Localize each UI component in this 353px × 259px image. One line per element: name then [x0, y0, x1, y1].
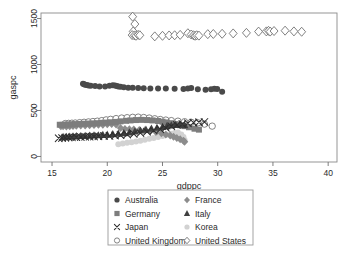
data-point: [141, 85, 147, 91]
legend-marker-icon: [114, 211, 119, 216]
data-point: [155, 85, 161, 91]
data-point: [147, 85, 153, 91]
y-tick-label: 1500: [29, 9, 39, 28]
data-point: [203, 87, 209, 93]
y-axis-title: gaspc: [8, 75, 18, 100]
data-point: [130, 85, 136, 91]
data-point: [133, 117, 139, 123]
legend-item-label: Japan: [125, 222, 148, 232]
x-tick-label: 30: [213, 168, 223, 178]
y-tick-label: 1000: [29, 55, 39, 74]
y-tick-label: 0: [29, 154, 39, 159]
data-point: [139, 117, 145, 123]
data-point: [127, 117, 133, 123]
x-tick-label: 20: [103, 168, 113, 178]
legend-marker-icon: [114, 197, 119, 202]
chart-canvas: 152025303540050010001500 gdppcgaspc Aust…: [0, 0, 353, 259]
data-point: [144, 117, 150, 123]
data-point: [150, 117, 156, 123]
legend-item-label: United States: [195, 236, 246, 246]
legend-item-label: Italy: [195, 209, 211, 219]
y-tick-label: 500: [29, 103, 39, 117]
legend-item-label: France: [195, 195, 222, 205]
legend-marker-icon: [184, 224, 189, 229]
x-tick-label: 40: [323, 168, 333, 178]
scatter-plot-figure: 152025303540050010001500 gdppcgaspc Aust…: [0, 0, 353, 259]
x-axis-title: gdppc: [177, 181, 202, 191]
legend-item-label: Germany: [125, 209, 161, 219]
data-point: [195, 86, 201, 92]
data-point: [163, 86, 169, 92]
legend-item-label: United Kingdom: [125, 236, 185, 246]
chart-legend: AustraliaFranceGermanyItalyJapanKoreaUni…: [108, 190, 253, 246]
legend-marker-icon: [114, 238, 119, 243]
data-point: [219, 89, 225, 95]
data-point: [196, 127, 202, 133]
legend-item-united-kingdom[interactable]: United Kingdom: [114, 236, 185, 246]
data-point: [97, 83, 103, 89]
data-point: [112, 119, 118, 125]
x-tick-label: 15: [47, 168, 57, 178]
data-point: [188, 85, 194, 91]
x-tick-label: 25: [158, 168, 168, 178]
data-point: [118, 118, 124, 124]
x-tick-label: 35: [268, 168, 278, 178]
data-point: [172, 86, 178, 92]
data-point: [135, 85, 141, 91]
data-point: [209, 123, 215, 129]
legend-item-label: Korea: [195, 222, 218, 232]
legend-item-label: Australia: [125, 195, 158, 205]
